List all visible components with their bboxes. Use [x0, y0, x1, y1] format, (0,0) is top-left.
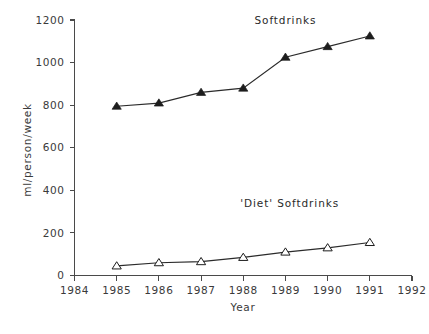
x-tick-label: 1986 — [144, 284, 173, 296]
series-2 — [112, 238, 374, 269]
series-layer — [112, 32, 374, 269]
x-axis-title: Year — [229, 301, 255, 313]
x-tick-label: 1984 — [60, 284, 89, 296]
series-label-2: 'Diet' Softdrinks — [240, 197, 339, 209]
x-tick-label: 1992 — [397, 284, 426, 296]
y-tick-label: 0 — [57, 269, 64, 281]
x-tick-labels: 198419851986198719881989199019911992 — [60, 284, 427, 296]
y-tick-label: 400 — [43, 184, 65, 196]
series-polyline — [117, 36, 370, 106]
x-tick-label: 1987 — [187, 284, 216, 296]
line-chart: 020040060080010001200 ml/person/week 198… — [0, 0, 429, 334]
series-1 — [112, 32, 374, 109]
y-axis-group: 020040060080010001200 ml/person/week — [21, 14, 75, 282]
x-tick-label: 1991 — [355, 284, 384, 296]
y-tick-label: 1000 — [35, 56, 64, 68]
x-tick-marks — [75, 276, 413, 281]
series-annotation-labels: Softdrinks'Diet' Softdrinks — [240, 14, 339, 209]
data-point-marker — [239, 84, 248, 91]
y-tick-label: 1200 — [35, 14, 64, 26]
x-tick-label: 1990 — [313, 284, 342, 296]
y-tick-labels: 020040060080010001200 — [35, 14, 64, 282]
x-tick-label: 1989 — [271, 284, 300, 296]
data-point-marker — [365, 32, 374, 39]
y-tick-marks — [70, 20, 75, 276]
y-tick-label: 200 — [43, 227, 65, 239]
x-tick-label: 1988 — [229, 284, 258, 296]
y-axis-title: ml/person/week — [21, 103, 33, 197]
x-tick-label: 1985 — [102, 284, 131, 296]
y-tick-label: 800 — [43, 99, 65, 111]
series-label-1: Softdrinks — [255, 14, 317, 26]
data-point-marker — [365, 238, 374, 245]
y-tick-label: 600 — [43, 141, 65, 153]
chart-container: 020040060080010001200 ml/person/week 198… — [0, 0, 429, 334]
x-axis-group: 198419851986198719881989199019911992 Yea… — [60, 276, 427, 314]
